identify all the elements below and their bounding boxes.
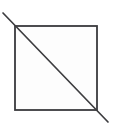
figure-canvas: Square with diagonal	[0, 0, 113, 133]
geometry-drawing	[0, 0, 113, 133]
